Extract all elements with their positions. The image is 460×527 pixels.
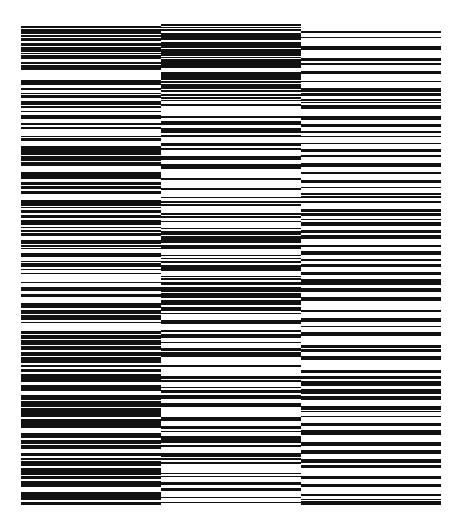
stripe (21, 461, 161, 466)
stripe (301, 389, 441, 394)
stripe (301, 93, 441, 96)
stripe (21, 273, 161, 274)
stripe (301, 149, 441, 152)
stripe (301, 349, 441, 352)
stripe (161, 426, 301, 429)
stripe (301, 222, 441, 226)
stripe (161, 313, 301, 314)
stripe (161, 156, 301, 160)
stripe (301, 31, 441, 33)
stripe (301, 196, 441, 198)
stripe (21, 440, 161, 444)
stripe (21, 269, 161, 270)
stripe (161, 204, 301, 206)
stripe (161, 488, 301, 491)
stripe (301, 450, 441, 454)
stripe (21, 287, 161, 291)
stripe (21, 419, 161, 428)
stripe (161, 376, 301, 379)
stripe (301, 356, 441, 360)
stripe (161, 231, 301, 235)
stripe (161, 245, 301, 249)
stripe (301, 251, 441, 255)
stripe (161, 334, 301, 338)
stripe (161, 90, 301, 92)
stripe (301, 213, 441, 216)
stripe (21, 26, 161, 28)
stripe (21, 127, 161, 129)
stripe (21, 248, 161, 249)
stripe (301, 245, 441, 247)
stripe (21, 476, 161, 479)
stripe (21, 29, 161, 34)
stripe (301, 370, 441, 373)
stripe (161, 282, 301, 285)
stripe (301, 187, 441, 188)
stripe (161, 462, 301, 464)
stripe (301, 71, 441, 74)
stripe (301, 416, 441, 417)
stripe (21, 38, 161, 41)
stripe (301, 406, 441, 410)
stripe (301, 396, 441, 400)
stripe (161, 216, 301, 218)
stripe (161, 436, 301, 443)
stripe (161, 307, 301, 311)
stripe (301, 155, 441, 157)
stripe (21, 95, 161, 98)
stripe (301, 499, 441, 500)
stripe-column-right (301, 31, 441, 506)
stripe (161, 148, 301, 150)
stripe (301, 105, 441, 109)
stripe (21, 162, 161, 166)
stripe (301, 345, 441, 348)
stripe (21, 191, 161, 194)
stripe (21, 385, 161, 391)
stripe (301, 99, 441, 101)
stripe (161, 330, 301, 332)
stripe (301, 136, 441, 137)
stripe (21, 310, 161, 314)
stripe (301, 46, 441, 50)
stripe (21, 207, 161, 208)
stripe (21, 315, 161, 320)
stripe (161, 213, 301, 215)
stripe (161, 84, 301, 89)
stripe (301, 143, 441, 144)
stripe (301, 201, 441, 203)
stripe (301, 297, 441, 301)
stripe (161, 293, 301, 298)
stripe (21, 106, 161, 108)
stripe (301, 180, 441, 183)
stripe (21, 136, 161, 137)
stripe (161, 473, 301, 474)
stripe (161, 33, 301, 40)
stripe (21, 282, 161, 283)
stripe (161, 403, 301, 407)
stripe (301, 442, 441, 446)
stripe (21, 352, 161, 356)
stripe (21, 357, 161, 363)
stripe (161, 482, 301, 485)
stripe (161, 476, 301, 477)
stripe (161, 365, 301, 367)
stripe (161, 143, 301, 146)
stripe-artwork (0, 0, 460, 527)
stripe (161, 265, 301, 271)
stripe (21, 458, 161, 460)
stripe (161, 178, 301, 180)
stripe (301, 172, 441, 174)
stripe (161, 121, 301, 125)
stripe (21, 230, 161, 232)
stripe (301, 163, 441, 167)
stripe (21, 88, 161, 90)
stripe (161, 342, 301, 343)
stripe (21, 369, 161, 372)
stripe (161, 276, 301, 277)
stripe (161, 59, 301, 68)
stripe (301, 376, 441, 379)
stripe (301, 124, 441, 127)
stripe (161, 57, 301, 58)
stripe (21, 261, 161, 262)
stripe (21, 233, 161, 236)
